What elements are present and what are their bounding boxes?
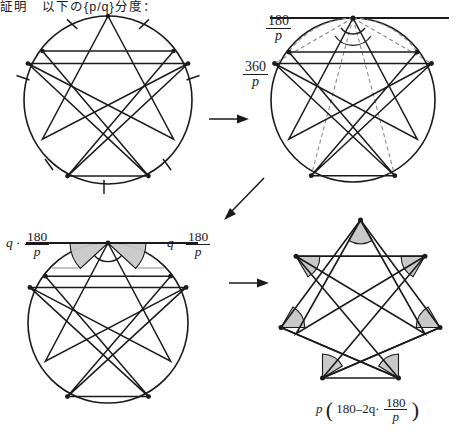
label-central-angle-360-over-p: 360 p [243,60,268,90]
d3-vertex-dots [28,241,189,399]
formula-p: p [316,401,323,416]
formula-denominator: p [384,410,408,423]
diagram-1-heptagram-equal-arcs [8,8,208,193]
arrowhead-down-left [224,208,236,220]
label-left-denominator: p [25,245,49,259]
label-right-q-times-180-over-p: q · 180 p [167,230,210,259]
label-left-prefix: q · [6,235,20,250]
diagram-4-star-point-angles [278,212,443,387]
arrowhead-right [237,115,249,124]
d2-star-polygon [275,18,432,176]
label-left-q-times-180-over-p: q · 180 p [6,230,49,259]
label-right-denominator: p [186,245,210,259]
label-half-angle-180-over-p: 180 p [266,14,291,44]
label-right-prefix: q · [167,235,181,250]
d2-dashed-construction [275,18,432,176]
circumcircle [271,18,435,182]
label-left-numerator: 180 [25,230,49,245]
d3-star-polygon [30,243,186,397]
arrow-3-right [228,274,270,292]
shaded-wedge-left [70,243,108,269]
d1-circle-group [24,16,192,184]
circumcircle [28,243,188,403]
label-half-angle-denominator: p [266,29,291,43]
d1-star-polygon-2 [28,51,188,176]
label-central-angle-numerator: 360 [243,60,268,75]
d3-shaded-wedges [70,243,146,269]
formula-body: 180–2q· [336,401,379,416]
shaded-wedge-right [108,243,146,269]
d1-star-polygon [28,16,188,139]
formula-open-paren: ( [326,397,333,422]
formula-numerator: 180 [384,396,408,410]
formula-close-paren: ) [412,397,419,422]
d4-shaded-point-wedges [281,220,440,378]
arrow-1-right [208,110,250,128]
label-half-angle-numerator: 180 [266,14,291,29]
formula-total-angle-sum: p ( 180–2q· 180 p ) [316,396,419,424]
arrow-2-down-left [218,176,268,224]
circumcircle [24,16,192,184]
arrowhead-right [257,279,269,288]
label-right-numerator: 180 [186,230,210,245]
label-central-angle-denominator: p [243,75,268,89]
